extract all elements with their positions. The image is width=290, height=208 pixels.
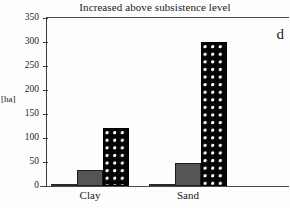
bar-sand-series-3 bbox=[201, 42, 227, 186]
bar-clay-series-1 bbox=[51, 184, 77, 186]
figure-panel-d: Increased above subsistence level d [ha]… bbox=[0, 0, 290, 208]
bar-clay-series-3 bbox=[103, 128, 129, 186]
x-category-label-clay: Clay bbox=[60, 189, 120, 202]
y-tick-label: 150 bbox=[0, 109, 39, 119]
bar-clay-series-2 bbox=[77, 170, 103, 186]
y-tick-label: 300 bbox=[0, 37, 39, 47]
bar-sand-series-2 bbox=[175, 163, 201, 186]
y-tick-label: 50 bbox=[0, 157, 39, 167]
x-category-label-sand: Sand bbox=[158, 189, 218, 202]
y-tick-label: 0 bbox=[0, 181, 39, 191]
y-tick-label: 200 bbox=[0, 85, 39, 95]
bar-sand-series-1 bbox=[149, 184, 175, 186]
y-axis-unit-label: [ha] bbox=[1, 94, 16, 105]
plot-area bbox=[47, 18, 289, 186]
y-tick-label: 100 bbox=[0, 133, 39, 143]
x-axis-line bbox=[40, 186, 289, 187]
chart-title: Increased above subsistence level bbox=[40, 0, 270, 14]
y-tick-label: 250 bbox=[0, 61, 39, 71]
y-tick-label: 350 bbox=[0, 13, 39, 23]
